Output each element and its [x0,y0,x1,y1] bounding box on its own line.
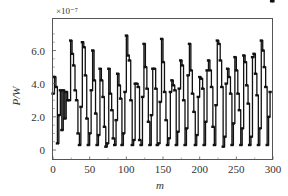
data-marker [100,79,103,81]
data-marker [101,96,104,98]
data-marker [167,137,170,139]
data-marker [91,49,94,51]
x-tick-label: 0 [50,163,56,175]
data-marker [258,127,261,129]
data-marker [239,144,242,146]
data-marker [148,144,151,146]
data-marker [220,86,223,88]
data-marker [68,99,71,101]
data-marker [204,121,207,123]
y-axis-label: P/W [10,86,22,107]
data-marker [145,87,148,89]
data-marker [267,116,270,118]
data-marker [263,66,266,68]
data-marker [78,144,81,146]
data-marker [195,134,198,136]
data-marker [219,59,222,61]
data-marker [260,39,263,41]
data-marker [271,0,274,2]
data-marker [241,127,244,129]
data-marker [82,46,85,48]
data-marker [147,121,150,123]
x-tick-label: 50 [84,163,96,175]
data-marker [158,101,161,103]
data-marker [98,68,101,70]
data-marker [235,69,238,71]
data-marker [110,109,113,111]
chart: 050100150200250300 02.04.06.0 ×10⁻⁷ m P/… [0,0,288,196]
series-line [53,36,272,147]
data-marker [164,119,167,121]
data-marker [222,145,225,147]
data-marker [205,69,208,71]
data-marker [70,53,73,55]
data-marker [230,144,233,146]
data-marker [191,92,194,94]
data-marker [189,69,192,71]
data-marker [65,91,68,93]
data-marker [200,77,203,79]
data-marker [216,39,219,41]
data-marker [170,79,173,81]
data-marker [135,82,138,84]
data-marker [197,96,200,98]
data-marker [144,66,147,68]
x-tick-label: 200 [191,163,208,175]
data-marker [179,59,182,61]
y-tick-label: 6.0 [31,45,45,57]
data-marker [173,89,176,91]
data-marker [112,137,115,139]
data-marker [161,61,164,63]
data-marker [252,53,255,55]
plot-area [51,0,274,148]
data-marker [62,89,65,91]
x-tick-label: 100 [118,163,135,175]
data-marker [53,76,56,78]
data-marker [141,96,144,98]
data-marker [109,92,112,94]
data-marker [246,102,249,104]
data-marker [94,112,97,114]
data-marker [176,131,179,133]
y-tick-label: 0 [40,144,46,156]
data-marker [104,145,107,147]
data-marker [129,99,132,101]
y-tick-label: 2.0 [31,111,45,123]
data-marker [183,144,186,146]
data-marker [73,89,76,91]
data-marker [84,74,87,76]
data-marker [57,114,60,116]
data-marker [188,43,191,45]
data-marker [154,87,157,89]
x-tick-label: 150 [155,163,172,175]
data-marker [264,86,267,88]
data-marker [257,144,260,146]
data-marker [88,132,91,134]
data-marker [182,99,185,101]
data-marker [107,68,110,70]
data-marker [126,54,129,56]
x-tick-label: 300 [265,163,282,175]
data-marker [125,34,128,36]
data-marker [251,56,254,58]
data-marker [76,132,79,134]
data-marker [136,86,139,88]
data-marker [139,144,142,146]
data-marker [194,144,197,146]
data-marker [90,89,93,91]
data-marker [178,87,181,89]
data-marker [153,68,156,70]
data-marker [180,64,183,66]
data-marker [268,91,271,93]
data-marker [229,92,232,94]
data-marker [211,126,214,128]
data-marker [207,59,210,61]
data-marker [97,134,100,136]
data-marker [166,144,169,146]
data-marker [150,114,153,116]
data-marker [116,73,119,75]
data-marker [72,64,75,66]
data-marker [242,54,245,56]
data-marker [87,144,90,146]
data-marker [63,117,66,119]
